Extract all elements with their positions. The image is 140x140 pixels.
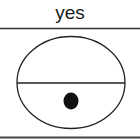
diagram-figure xyxy=(0,0,140,140)
dot-icon xyxy=(64,93,79,110)
